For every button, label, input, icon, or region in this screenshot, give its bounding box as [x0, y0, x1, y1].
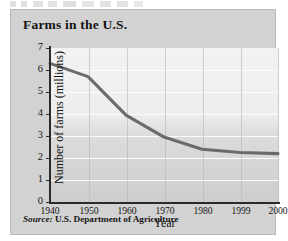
source-note: Source: U.S. Department of Agriculture	[23, 214, 179, 224]
y-tick-2	[46, 158, 50, 159]
series-line-number-of-farms	[50, 48, 279, 202]
y-tick-label-2: 2	[29, 151, 43, 162]
y-tick-1	[46, 180, 50, 181]
y-tick-label-1: 1	[29, 173, 43, 184]
y-tick-7	[46, 48, 50, 49]
x-tick-label-1999: 1999	[224, 205, 258, 216]
y-tick-5	[46, 92, 50, 93]
x-axis-line	[49, 202, 280, 204]
y-tick-4	[46, 114, 50, 115]
chart-figure: Farms in the U.S.	[0, 0, 285, 241]
plot-area	[50, 48, 279, 202]
y-tick-0	[46, 202, 50, 203]
x-tick-label-1980: 1980	[186, 205, 220, 216]
y-tick-label-4: 4	[29, 107, 43, 118]
scan-artifact	[10, 1, 150, 7]
source-keyword: Source:	[23, 214, 53, 224]
source-text: U.S. Department of Agriculture	[55, 214, 179, 224]
y-tick-label-5: 5	[29, 85, 43, 96]
chart-title: Farms in the U.S.	[23, 17, 127, 33]
y-axis-title: Number of farms (millions)	[52, 38, 67, 198]
y-tick-3	[46, 136, 50, 137]
y-tick-label-7: 7	[29, 41, 43, 52]
chart-card: Farms in the U.S.	[10, 9, 276, 235]
y-tick-label-3: 3	[29, 129, 43, 140]
y-tick-label-6: 6	[29, 63, 43, 74]
y-tick-6	[46, 70, 50, 71]
x-tick-label-2000: 2000	[261, 205, 285, 216]
